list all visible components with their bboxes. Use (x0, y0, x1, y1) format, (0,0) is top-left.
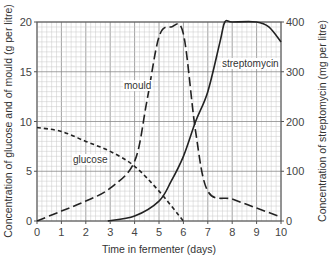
svg-text:1: 1 (58, 226, 64, 238)
svg-text:100: 100 (286, 165, 304, 177)
svg-text:8: 8 (229, 226, 235, 238)
y2-axis-label: Concentration of streptomycin (mg per li… (316, 20, 328, 222)
svg-text:200: 200 (286, 116, 304, 128)
mould-label: mould (124, 80, 151, 91)
svg-text:15: 15 (20, 66, 32, 78)
svg-text:20: 20 (20, 16, 32, 28)
streptomycin-label: streptomycin (222, 58, 279, 69)
svg-text:3: 3 (107, 226, 113, 238)
chart: 012345678910051015200100200300400 glucos… (0, 0, 331, 265)
svg-text:0: 0 (26, 215, 32, 227)
y-axis-label: Concentration of glucose and of mould (g… (2, 4, 14, 237)
svg-text:6: 6 (180, 226, 186, 238)
svg-text:9: 9 (254, 226, 260, 238)
svg-text:2: 2 (83, 226, 89, 238)
svg-text:5: 5 (26, 165, 32, 177)
svg-text:7: 7 (205, 226, 211, 238)
svg-text:300: 300 (286, 66, 304, 78)
svg-text:10: 10 (275, 226, 287, 238)
glucose-label: glucose (73, 154, 108, 165)
svg-text:4: 4 (132, 226, 138, 238)
svg-text:400: 400 (286, 16, 304, 28)
svg-text:0: 0 (34, 226, 40, 238)
x-axis-label: Time in fermenter (days) (102, 243, 216, 255)
svg-text:10: 10 (20, 116, 32, 128)
svg-text:0: 0 (286, 215, 292, 227)
svg-text:5: 5 (156, 226, 162, 238)
